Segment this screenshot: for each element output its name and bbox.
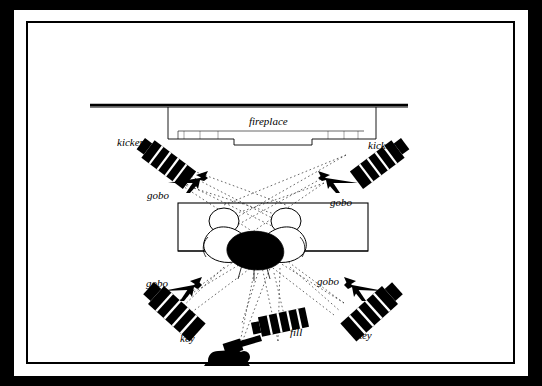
label-fill: fill: [290, 326, 302, 338]
label-kicker-right: kicker: [368, 139, 395, 151]
label-key-right: key: [357, 329, 372, 341]
fixture-key-right: [340, 279, 405, 341]
label-key-left: key: [180, 332, 195, 344]
screenshot-root: fireplace kicker kicker gobo gobo gobo g…: [0, 0, 542, 386]
label-gobo-lower-right: gobo: [317, 275, 339, 287]
two-figures: [203, 208, 306, 281]
label-gobo-lower-left: gobo: [146, 277, 168, 289]
lighting-plot-diagram: [28, 23, 517, 366]
label-gobo-upper-right: gobo: [330, 196, 352, 208]
label-fireplace: fireplace: [249, 115, 288, 127]
paper-background: fireplace kicker kicker gobo gobo gobo g…: [14, 10, 528, 376]
camera-icon: [204, 335, 262, 366]
label-gobo-upper-left: gobo: [147, 189, 169, 201]
diagram-frame: fireplace kicker kicker gobo gobo gobo g…: [26, 21, 515, 364]
label-kicker-left: kicker: [117, 136, 144, 148]
